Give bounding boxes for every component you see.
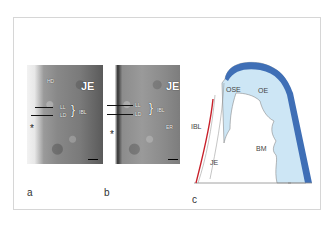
panel-letter-c: c [192,194,197,205]
scale-bar [168,159,178,160]
panel-letter-b: b [104,187,110,198]
brace: } [149,102,153,114]
label-er: ER [166,125,173,130]
schematic-panel-c: IBL JE OSE OE BM [188,59,318,199]
label-je: JE [210,159,219,166]
arrow-ll [35,107,53,108]
label-je: JE [166,81,179,92]
label-ibl: IBL [79,110,87,115]
arrow-ld [31,115,53,116]
scale-bar [88,159,98,160]
label-ose: OSE [226,86,241,93]
je-outline [198,83,224,183]
label-oe: OE [258,87,268,94]
label-bm: BM [256,145,267,152]
arrow-ll [107,105,133,106]
label-ld: LD [60,113,66,118]
asterisk: * [30,123,34,134]
label-ld: LD [135,112,141,117]
label-ibl: IBL [191,123,202,130]
ibl-line [196,99,213,183]
panel-letter-a: a [27,187,33,198]
brace: } [71,104,75,116]
label-hd: HD [47,79,54,84]
label-ibl: IBL [157,108,165,113]
arrow-ld [107,114,133,115]
micrograph-panel-a: HD JE LL LD } IBL * [27,65,103,164]
micrograph-panel-b: JE LL LD } IBL ER * [103,65,180,164]
label-ll: LL [135,103,141,108]
label-ll: LL [60,105,66,110]
label-je: JE [81,81,94,92]
asterisk: * [110,129,114,140]
